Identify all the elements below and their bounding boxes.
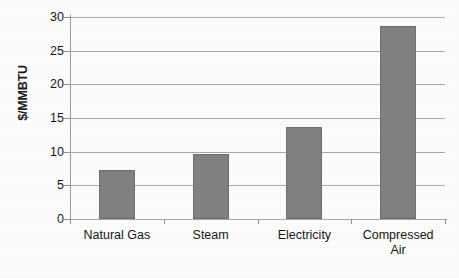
y-axis-tick-mark [64, 185, 70, 186]
y-axis-tick-mark [64, 17, 70, 18]
y-axis-tick-label: 15 [34, 111, 64, 125]
x-axis-tick-mark [258, 219, 259, 224]
y-axis-tick-label: 20 [34, 77, 64, 91]
bar [193, 154, 229, 219]
y-axis-tick-mark [64, 118, 70, 119]
x-axis-category-label: CompressedAir [351, 228, 445, 258]
gridline [70, 17, 445, 18]
y-axis-tick-label: 0 [34, 212, 64, 226]
x-axis-tick-mark [164, 219, 165, 224]
y-axis-tick-label: 5 [34, 178, 64, 192]
bar [99, 170, 135, 219]
y-axis-tick-mark [64, 84, 70, 85]
y-axis-tick-mark [64, 51, 70, 52]
x-axis-category-label: Natural Gas [70, 228, 164, 243]
y-axis-tick-label: 25 [34, 44, 64, 58]
x-axis-tick-mark [445, 219, 446, 224]
x-axis-tick-mark [351, 219, 352, 224]
bar [380, 26, 416, 219]
y-axis-tick-label: 10 [34, 145, 64, 159]
x-axis-category-label: Steam [164, 228, 258, 243]
bar [286, 127, 322, 219]
plot-area [70, 17, 445, 219]
x-axis-tick-mark [70, 219, 71, 224]
bar-chart: $/MMBTU 051015202530 Natural GasSteamEle… [0, 0, 459, 278]
x-axis-category-labels: Natural GasSteamElectricityCompressedAir [70, 228, 445, 274]
y-axis-tick-mark [64, 152, 70, 153]
y-axis-tick-label: 30 [34, 10, 64, 24]
y-axis-tick-labels: 051015202530 [30, 17, 64, 219]
y-axis-title: $/MMBTU [16, 38, 30, 148]
x-axis-category-label: Electricity [258, 228, 352, 243]
